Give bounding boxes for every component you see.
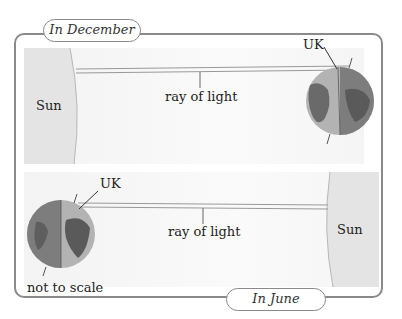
not-to-scale-note: not to scale — [27, 280, 103, 295]
december-ray — [76, 66, 350, 69]
december-tab: In December — [43, 19, 141, 42]
december-earth-icon — [306, 58, 374, 144]
june-uk-label: UK — [100, 176, 121, 191]
diagram-graphics — [0, 0, 402, 319]
june-earth-icon — [27, 194, 95, 276]
december-ray-label: ray of light — [165, 89, 237, 104]
june-sun-label: Sun — [337, 222, 363, 237]
december-uk-label: UK — [303, 37, 324, 52]
december-uk-pointer — [324, 47, 337, 69]
june-ray — [78, 203, 328, 205]
june-ray-label: ray of light — [168, 224, 240, 239]
june-tab: In June — [226, 288, 326, 311]
december-sun-label: Sun — [36, 98, 62, 113]
june-uk-pointer — [79, 191, 98, 209]
